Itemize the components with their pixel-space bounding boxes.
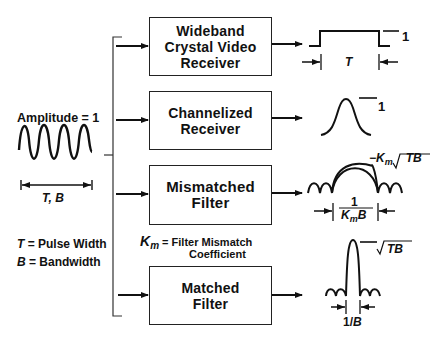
km-description-line2: Coefficient bbox=[189, 248, 246, 260]
legend-pulse-width: T = Pulse Width bbox=[17, 237, 107, 251]
matched-peak-label: TB bbox=[387, 242, 403, 256]
km-subscript: m bbox=[150, 240, 159, 251]
splitter-bracket bbox=[113, 37, 122, 316]
block-label-line: Filter bbox=[192, 195, 230, 211]
b-symbol: B bbox=[353, 315, 362, 329]
mismatched-width-numerator: 1 bbox=[351, 195, 358, 209]
block-label-line: Channelized bbox=[168, 105, 253, 121]
block-label-line: Matched bbox=[181, 280, 239, 296]
wideband-crystal-video-receiver-block: Wideband Crystal Video Receiver bbox=[149, 17, 272, 76]
peak-prefix: −K bbox=[369, 151, 385, 165]
b-symbol: B bbox=[55, 191, 64, 205]
input-sine-wave bbox=[19, 125, 92, 159]
legend-bandwidth: B = Bandwidth bbox=[17, 255, 101, 269]
matched-width-label: 1/B bbox=[343, 315, 362, 329]
km-description: = Filter Mismatch bbox=[159, 236, 252, 248]
peak-subscript: m bbox=[385, 157, 393, 167]
wideband-amplitude-label: 1 bbox=[402, 29, 409, 44]
channelized-gaussian-waveform bbox=[321, 99, 371, 135]
input-duration-label: T, B bbox=[42, 191, 64, 205]
k-subscript: m bbox=[350, 214, 358, 224]
b-symbol: B bbox=[17, 255, 26, 269]
matched-sinc-waveform bbox=[326, 240, 380, 296]
block-label-line: Filter bbox=[193, 296, 228, 312]
channelized-amplitude-label: 1 bbox=[378, 99, 385, 114]
amplitude-label: Amplitude = 1 bbox=[17, 111, 99, 125]
k-symbol: K bbox=[341, 208, 350, 222]
width-numerator: 1/ bbox=[343, 315, 353, 329]
b-description: = Bandwidth bbox=[26, 255, 101, 269]
block-label-line: Mismatched bbox=[166, 179, 255, 195]
peak-root: TB bbox=[406, 151, 422, 165]
b-symbol: B bbox=[358, 208, 367, 222]
block-label-line: Receiver bbox=[181, 121, 241, 137]
block-label-line: Wideband bbox=[176, 23, 244, 39]
mismatched-width-denominator: KmB bbox=[341, 208, 366, 224]
mismatched-peak-label: −KmTB bbox=[369, 151, 422, 167]
wideband-pulse-waveform bbox=[309, 31, 390, 46]
wideband-width-label: T bbox=[345, 55, 352, 69]
channelized-receiver-block: Channelized Receiver bbox=[149, 91, 272, 150]
mismatched-filter-block: Mismatched Filter bbox=[149, 165, 272, 225]
t-description: = Pulse Width bbox=[24, 237, 106, 251]
km-symbol: K bbox=[140, 233, 150, 249]
block-label-line: Crystal Video bbox=[165, 39, 257, 55]
matched-filter-block: Matched Filter bbox=[149, 266, 272, 325]
block-label-line: Receiver bbox=[181, 55, 241, 71]
